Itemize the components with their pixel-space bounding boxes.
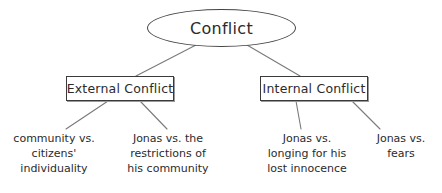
node-external-conflict[interactable]: External Conflict — [66, 76, 174, 101]
edge-external-to-leaf-1 — [66, 101, 108, 129]
leaf-jonas-vs-fears[interactable]: Jonas vs. fears — [362, 131, 440, 161]
leaf-line: Jonas vs. — [267, 131, 347, 146]
leaf-line: citizens' — [13, 146, 94, 161]
leaf-community-vs-citizens[interactable]: community vs. citizens' individuality — [2, 131, 106, 176]
leaf-line: fears — [377, 146, 426, 161]
leaf-line: community vs. — [13, 131, 94, 146]
leaf-line: lost innocence — [267, 161, 347, 176]
leaf-line: Jonas vs. the — [127, 131, 208, 146]
edge-internal-to-leaf-4 — [352, 101, 380, 129]
leaf-line: longing for his — [267, 146, 347, 161]
leaf-jonas-vs-restrictions[interactable]: Jonas vs. the restrictions of his commun… — [112, 131, 224, 176]
node-external-label: External Conflict — [67, 81, 174, 96]
leaf-jonas-vs-longing[interactable]: Jonas vs. longing for his lost innocence — [252, 131, 362, 176]
edge-root-to-internal — [247, 45, 300, 76]
leaf-line: restrictions of — [127, 146, 208, 161]
conflict-diagram: Conflict External Conflict Internal Conf… — [0, 0, 442, 193]
node-internal-label: Internal Conflict — [263, 81, 366, 96]
leaf-label-group: Jonas vs. fears — [377, 131, 426, 161]
leaf-line: his community — [127, 161, 208, 176]
edge-external-to-leaf-2 — [140, 101, 167, 129]
edge-internal-to-leaf-3 — [296, 101, 301, 129]
leaf-line: Jonas vs. — [377, 131, 426, 146]
node-root-label: Conflict — [190, 19, 253, 38]
node-root-conflict[interactable]: Conflict — [147, 9, 296, 47]
leaf-label-group: community vs. citizens' individuality — [13, 131, 94, 176]
leaf-label-group: Jonas vs. longing for his lost innocence — [267, 131, 347, 176]
leaf-label-group: Jonas vs. the restrictions of his commun… — [127, 131, 208, 176]
node-internal-conflict[interactable]: Internal Conflict — [260, 76, 368, 101]
leaf-line: individuality — [13, 161, 94, 176]
edge-root-to-external — [136, 45, 196, 76]
